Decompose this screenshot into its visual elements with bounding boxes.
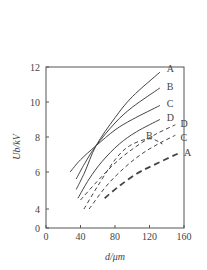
- y-tick-label: 4: [35, 204, 40, 215]
- x-tick-label: 0: [44, 231, 49, 242]
- curves: [70, 72, 180, 209]
- x-axis-title: d/μm: [105, 251, 125, 262]
- curve-label: A: [184, 147, 192, 158]
- y-tick-label: 8: [35, 132, 40, 143]
- curve-d-dashed: [81, 125, 176, 200]
- line-chart: 0408012016004681012 ABCDDBCA d/μm Ub/kV: [0, 0, 207, 270]
- curve-label: B: [167, 81, 174, 92]
- y-axis-title: Ub/kV: [11, 132, 22, 159]
- curve-label: C: [167, 98, 174, 109]
- curve-c-dashed: [89, 135, 175, 209]
- y-tick-label: 6: [35, 167, 40, 178]
- x-tick-label: 80: [110, 231, 120, 242]
- curve-b-dashed: [84, 139, 162, 209]
- curve-label: C: [181, 132, 188, 143]
- x-tick-label: 40: [76, 231, 86, 242]
- curve-label: B: [146, 130, 153, 141]
- curve-label: A: [167, 63, 175, 74]
- y-tick-label: 0: [35, 223, 40, 234]
- curve-label: D: [181, 118, 188, 129]
- x-tick-label: 120: [142, 231, 157, 242]
- y-tick-label: 10: [30, 97, 40, 108]
- y-tick-label: 12: [30, 62, 40, 73]
- x-tick-label: 160: [177, 231, 192, 242]
- curve-labels: ABCDDBCA: [146, 63, 192, 158]
- curve-label: D: [167, 112, 174, 123]
